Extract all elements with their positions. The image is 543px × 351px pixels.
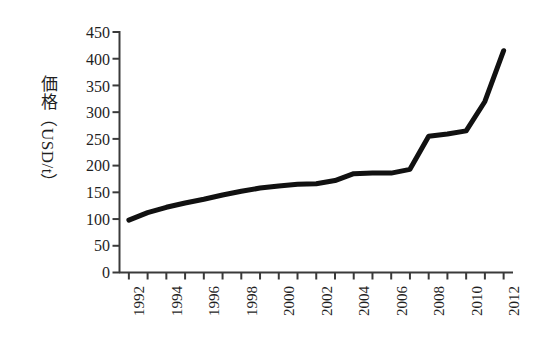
x-axis-ticks: [129, 273, 504, 280]
y-axis-ticks: [113, 32, 120, 273]
data-series-line: [129, 51, 504, 220]
line-chart: 価格（USD/t） 450 400 350 300 250 200 150 10…: [0, 0, 543, 351]
plot-area: [0, 0, 543, 351]
axis-lines: [119, 31, 513, 273]
